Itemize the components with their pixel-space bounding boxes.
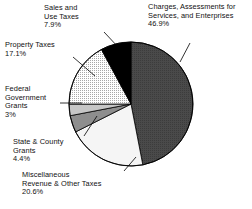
label-misc-percent: 20.6% <box>22 188 101 197</box>
label-federal-government-grants: Federal Government Grants 3% <box>5 85 46 119</box>
pie-chart-figure: Charges, Assessments for Services, and E… <box>0 0 252 209</box>
label-federal-percent: 3% <box>5 111 46 120</box>
label-charges: Charges, Assessments for Services, and E… <box>148 3 235 29</box>
label-state-percent: 4.4% <box>13 155 63 164</box>
label-charges-percent: 46.9% <box>148 20 235 29</box>
label-sales-use-taxes: Sales and Use Taxes 7.9% <box>44 4 79 30</box>
label-state-county-grants: State & County Grants 4.4% <box>13 138 63 164</box>
label-miscellaneous-revenue: Miscellaneous Revenue & Other Taxes 20.6… <box>22 171 101 197</box>
pie-slice-charges <box>131 42 193 165</box>
label-property-taxes: Property Taxes 17.1% <box>5 41 55 58</box>
label-sales-percent: 7.9% <box>44 21 79 30</box>
label-property-percent: 17.1% <box>5 50 55 59</box>
leader-line-charges <box>180 43 190 62</box>
